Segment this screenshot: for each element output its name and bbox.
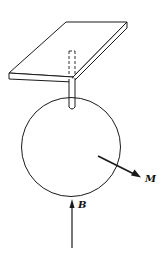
field-arrow xyxy=(70,199,75,248)
magnetization-arrow xyxy=(98,156,141,178)
diagram-canvas: M B xyxy=(0,0,164,259)
sphere xyxy=(22,98,121,197)
field-label: B xyxy=(77,199,86,210)
plate xyxy=(9,22,127,82)
rod xyxy=(69,78,75,109)
magnetization-label: M xyxy=(144,173,157,184)
plate-top-face xyxy=(9,22,127,77)
